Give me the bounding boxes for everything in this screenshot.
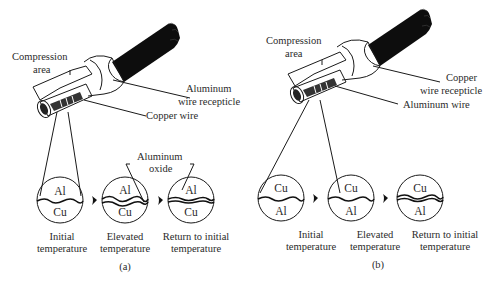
stage-caption: Elevated xyxy=(107,231,144,242)
panel-b: Compression area Copper wire recepticle … xyxy=(258,9,482,271)
stage-caption: Return to initial xyxy=(163,231,230,242)
leader-wire-b xyxy=(335,86,398,104)
label-receptacle-a-2: wire recepticle xyxy=(178,96,240,107)
label-compression-area-b-1: Compression xyxy=(266,35,322,46)
label-wire-a: Copper wire xyxy=(146,110,199,121)
stage-top-label: Al xyxy=(185,184,197,196)
label-oxide-a-1: Aluminum xyxy=(137,151,183,162)
stage-top-label: Al xyxy=(54,185,66,197)
label-oxide-a-2: oxide xyxy=(149,163,173,174)
label-compression-area-b-2: area xyxy=(285,48,303,59)
stage-top-label: Cu xyxy=(344,182,358,194)
stage-caption: Elevated xyxy=(357,229,394,240)
stage-caption: temperature xyxy=(100,243,150,254)
stage-b-initial: Cu Al xyxy=(258,175,304,221)
zoom-line-right-a xyxy=(68,112,81,196)
stage-caption: temperature xyxy=(171,243,221,254)
stage-caption: Return to initial xyxy=(412,229,479,240)
label-receptacle-a-1: Aluminum xyxy=(186,83,232,94)
stage-bottom-label: Al xyxy=(414,205,426,217)
stage-a-elevated: Al Cu xyxy=(102,177,148,223)
stage-caption: Initial xyxy=(298,229,323,240)
leader-receptacle-b xyxy=(373,66,440,82)
panel-caption-a: (a) xyxy=(119,261,131,273)
label-receptacle-b-1: Copper xyxy=(446,72,477,83)
stage-caption: temperature xyxy=(37,243,87,254)
label-wire-b: Aluminum wire xyxy=(403,99,470,110)
cable-b xyxy=(368,9,432,66)
arrow-icon xyxy=(92,196,97,205)
stage-top-label: Cu xyxy=(274,182,288,194)
stage-a-return: Al Cu xyxy=(168,177,214,223)
label-compression-area-a-1: Compression xyxy=(12,51,68,62)
leader-wire-a xyxy=(84,100,146,116)
arrow-icon xyxy=(158,196,163,205)
stage-bottom-label: Cu xyxy=(53,206,67,218)
stage-bottom-label: Al xyxy=(275,205,287,217)
stage-top-label: Al xyxy=(119,184,131,196)
label-receptacle-b-2: wire recepticle xyxy=(420,85,482,96)
stage-caption: temperature xyxy=(420,241,470,252)
stage-b-elevated: Cu Al xyxy=(328,175,374,221)
zoom-line-right-b xyxy=(320,100,340,193)
stage-top-label: Cu xyxy=(413,182,427,194)
stage-b-return: Cu Al xyxy=(397,175,443,221)
panel-a: Compression area Aluminum wire recepticl… xyxy=(12,23,240,273)
cable-a xyxy=(112,23,180,82)
label-compression-area-a-2: area xyxy=(33,64,51,75)
stage-caption: Initial xyxy=(49,231,74,242)
diagram-canvas: Compression area Aluminum wire recepticl… xyxy=(0,0,503,282)
stage-bottom-label: Al xyxy=(345,205,357,217)
stage-caption: temperature xyxy=(350,241,400,252)
stage-a-initial: Al Cu xyxy=(37,177,83,223)
stage-caption: temperature xyxy=(286,241,336,252)
stage-bottom-label: Cu xyxy=(184,206,198,218)
stage-bottom-label: Cu xyxy=(118,206,132,218)
zoom-line-left-a xyxy=(40,112,57,196)
arrow-icon xyxy=(313,194,318,203)
panel-caption-b: (b) xyxy=(372,259,385,271)
arrow-icon xyxy=(383,194,388,203)
